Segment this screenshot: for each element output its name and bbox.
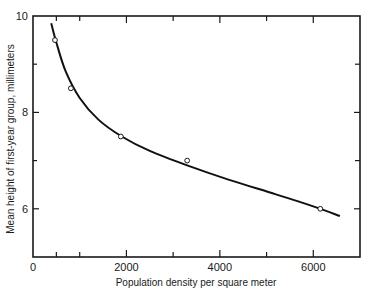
data-point	[185, 158, 190, 163]
x-tick-label: 0	[30, 261, 36, 273]
data-point	[68, 86, 73, 91]
chart: 0200040006000 6810 Population density pe…	[0, 0, 374, 295]
y-axis-title: Mean height of first-year group, millime…	[5, 44, 16, 234]
data-points	[53, 38, 323, 212]
data-point	[53, 38, 58, 43]
data-point	[118, 134, 123, 139]
x-axis-title: Population density per square meter	[116, 277, 277, 288]
y-tick-label: 6	[22, 203, 28, 215]
fitted-curve	[51, 23, 340, 216]
y-tick-label: 8	[22, 106, 28, 118]
x-tick-label: 2000	[114, 261, 138, 273]
x-tick-label: 4000	[208, 261, 232, 273]
plot-frame	[33, 16, 360, 257]
x-axis-tick-labels: 0200040006000	[30, 261, 326, 273]
y-tick-label: 10	[16, 10, 28, 22]
y-axis-tick-labels: 6810	[16, 10, 28, 215]
x-tick-label: 6000	[301, 261, 325, 273]
x-axis-ticks	[56, 16, 313, 257]
y-axis-ticks	[33, 64, 360, 209]
data-point	[318, 206, 323, 211]
